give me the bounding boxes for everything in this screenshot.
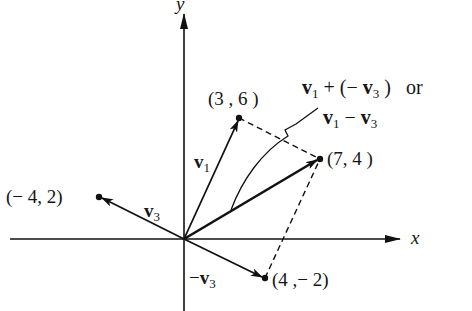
point-label-3-6: (3 , 6 ): [208, 89, 259, 108]
dashed-edge-negv3-to-sum: [265, 159, 320, 278]
vector-v3: [102, 198, 184, 239]
x-axis-label: x: [411, 228, 419, 247]
dashed-edge-v1-to-sum: [239, 118, 320, 159]
annotation-line-1: v1 + (− v3 ) or: [302, 77, 423, 100]
y-axis-label: y: [176, 0, 184, 13]
point-7-4: [317, 156, 323, 162]
vector-v1: [184, 121, 238, 239]
annotation-line-2: v1 − v3: [323, 107, 377, 130]
point-3-6: [236, 115, 242, 121]
annotation-leader-line: [231, 108, 318, 210]
vector-label-v3: v3: [144, 201, 160, 223]
point-label-neg4-2: (− 4, 2): [6, 187, 63, 206]
point-neg4-2: [96, 194, 102, 200]
point-label-7-4: (7, 4 ): [327, 149, 373, 168]
vector-diagram: [0, 0, 472, 311]
vector-label-neg-v3: −v3: [189, 268, 216, 290]
point-4-neg2: [262, 275, 268, 281]
point-label-4-neg2: (4 ,− 2): [272, 270, 329, 289]
vector-label-v1: v1: [194, 152, 210, 174]
